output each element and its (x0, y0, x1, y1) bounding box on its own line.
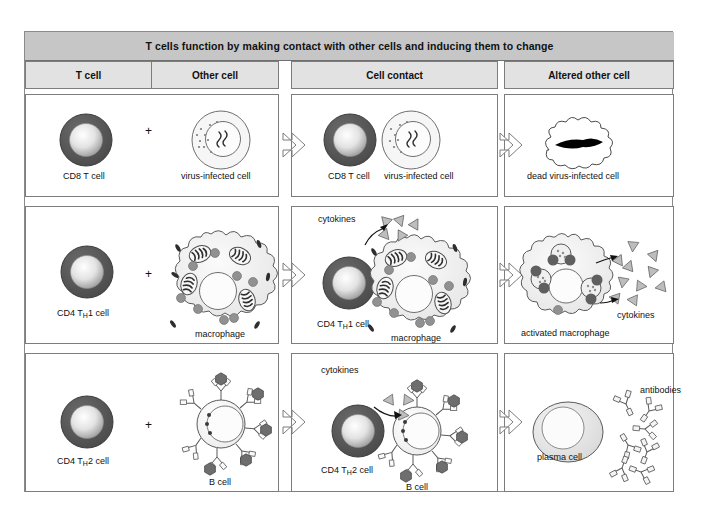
figure-panel: T cells function by making contact with … (24, 31, 673, 492)
label-contact-virus-infected-cell: virus-infected cell (384, 171, 454, 181)
label-virus-infected-cell: virus-infected cell (181, 171, 251, 181)
label-antibodies: antibodies (640, 385, 681, 395)
row-th1-tcell (61, 246, 113, 298)
label-plasma-cell: plasma cell (537, 452, 582, 462)
figure-graphics (25, 32, 674, 493)
plus-sign-row1: + (145, 124, 152, 138)
label-macrophage: macrophage (195, 329, 245, 339)
label-contact-cd4-th1-cell: CD4 TH1 cell (317, 319, 369, 330)
label-contact-macrophage: macrophage (391, 333, 441, 343)
label-contact-cd8-t-cell: CD8 T cell (328, 171, 370, 181)
label-cd8-t-cell: CD8 T cell (63, 171, 105, 181)
label-activated-macrophage: activated macrophage (521, 328, 610, 338)
plus-sign-row2: + (145, 267, 152, 281)
label-cytokines-activated: cytokines (617, 310, 655, 320)
row-th2-tcell (61, 396, 113, 448)
row-cd8-tcell (60, 114, 112, 166)
plus-sign-row3: + (145, 418, 152, 432)
label-cd4-th1-cell: CD4 TH1 cell (57, 308, 109, 319)
label-cytokines-th2: cytokines (321, 365, 359, 375)
label-cytokines-th1: cytokines (318, 214, 356, 224)
label-dead-virus-infected-cell: dead virus-infected cell (527, 171, 619, 181)
label-b-cell: B cell (209, 477, 231, 487)
label-contact-b-cell: B cell (406, 482, 428, 492)
row-cd8-virus-infected-cell (192, 111, 250, 169)
label-contact-cd4-th2-cell: CD4 TH2 cell (321, 465, 373, 476)
label-cd4-th2-cell: CD4 TH2 cell (57, 456, 109, 467)
